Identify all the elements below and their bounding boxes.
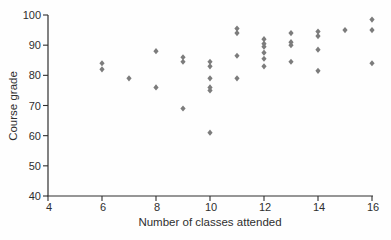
scatter-point xyxy=(234,75,239,81)
scatter-point xyxy=(180,105,185,111)
scatter-point xyxy=(261,56,266,62)
scatter-chart-figure: 46810121416405060708090100 Course grade … xyxy=(0,0,391,240)
y-tick-label: 40 xyxy=(29,190,41,202)
x-tick-label: 12 xyxy=(259,201,271,213)
y-axis-label: Course grade xyxy=(7,71,19,141)
y-tick-label: 60 xyxy=(29,130,41,142)
x-axis-label: Number of classes attended xyxy=(138,216,281,228)
x-tick-label: 4 xyxy=(46,201,52,213)
y-tick-label: 50 xyxy=(29,160,41,172)
scatter-point xyxy=(369,27,374,33)
scatter-point xyxy=(369,60,374,66)
scatter-point xyxy=(207,63,212,69)
scatter-point xyxy=(153,84,158,90)
scatter-point xyxy=(99,66,104,72)
scatter-point xyxy=(288,59,293,65)
x-tick-label: 10 xyxy=(205,201,217,213)
scatter-point xyxy=(234,30,239,36)
scatter-point xyxy=(153,48,158,54)
scatter-point xyxy=(261,50,266,56)
y-tick-label: 90 xyxy=(29,39,41,51)
x-tick-label: 6 xyxy=(100,201,106,213)
y-tick-label: 70 xyxy=(29,100,41,112)
scatter-point xyxy=(180,59,185,65)
chart-canvas: 46810121416405060708090100 Course grade … xyxy=(0,0,391,240)
scatter-point xyxy=(207,75,212,81)
scatter-point xyxy=(342,27,347,33)
scatter-point xyxy=(315,68,320,74)
scatter-point xyxy=(99,60,104,66)
scatter-point xyxy=(288,30,293,36)
y-tick-label: 100 xyxy=(23,9,41,21)
x-tick-label: 14 xyxy=(313,201,325,213)
x-tick-label: 16 xyxy=(367,201,379,213)
x-tick-label: 8 xyxy=(154,201,160,213)
scatter-point xyxy=(234,53,239,59)
scatter-point xyxy=(207,130,212,136)
scatter-point xyxy=(369,16,374,22)
axes xyxy=(43,15,373,201)
y-tick-label: 80 xyxy=(29,69,41,81)
data-points xyxy=(99,16,374,135)
scatter-point xyxy=(261,63,266,69)
scatter-point xyxy=(315,47,320,53)
tick-labels: 46810121416405060708090100 xyxy=(23,9,379,213)
scatter-point xyxy=(315,33,320,39)
scatter-point xyxy=(126,75,131,81)
